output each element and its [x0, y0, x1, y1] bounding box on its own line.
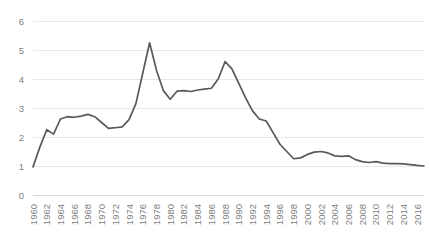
x-axis-tick-label: 1968 — [82, 204, 93, 225]
x-axis-tick-label: 1966 — [69, 204, 80, 225]
x-axis-tick-label: 1976 — [137, 204, 148, 225]
x-axis-tick-label: 1982 — [178, 204, 189, 225]
x-axis-tick-label: 1974 — [124, 204, 135, 225]
chart-container: 0123456 19601962196419661968197019721974… — [0, 0, 429, 241]
y-axis-tick-label: 6 — [19, 16, 24, 27]
x-axis-tick-label: 2008 — [357, 204, 368, 225]
line-chart-svg: 0123456 19601962196419661968197019721974… — [0, 0, 429, 241]
x-axis-tick-label: 1970 — [96, 204, 107, 225]
y-axis-tick-label: 5 — [19, 45, 24, 56]
x-axis-tick-label: 1992 — [247, 204, 258, 225]
x-axis-tick-label: 2004 — [329, 204, 340, 225]
y-axis-tick-label: 2 — [19, 132, 24, 143]
x-axis-tick-label: 2012 — [384, 204, 395, 225]
x-axis-tick-label: 1980 — [165, 204, 176, 225]
x-axis-tick-label: 1984 — [192, 204, 203, 225]
x-axis-tick-label: 1990 — [233, 204, 244, 225]
plot-area: 0123456 19601962196419661968197019721974… — [0, 0, 429, 241]
x-axis-tick-label: 2002 — [316, 204, 327, 225]
x-axis-tick-label: 1986 — [206, 204, 217, 225]
x-axis-tick-label: 2000 — [302, 204, 313, 225]
gridlines-group — [33, 22, 424, 196]
y-axis-tick-label: 4 — [19, 74, 24, 85]
x-axis-tick-labels: 1960196219641966196819701972197419761978… — [28, 204, 423, 225]
x-axis-tick-label: 2006 — [343, 204, 354, 225]
x-axis-tick-label: 1962 — [41, 204, 52, 225]
x-axis-tick-label: 1998 — [288, 204, 299, 225]
x-axis-tick-label: 2016 — [412, 204, 423, 225]
x-axis-tick-label: 2010 — [370, 204, 381, 225]
data-series-line — [33, 43, 424, 167]
x-axis-tick-label: 1996 — [274, 204, 285, 225]
y-axis-tick-label: 3 — [19, 103, 24, 114]
x-axis-tick-label: 1960 — [28, 204, 39, 225]
x-axis-tick-label: 1988 — [220, 204, 231, 225]
y-axis-tick-labels: 0123456 — [19, 16, 24, 201]
y-axis-tick-label: 0 — [19, 190, 24, 201]
x-axis-tick-label: 1978 — [151, 204, 162, 225]
y-axis-tick-label: 1 — [19, 161, 24, 172]
x-axis-tick-label: 1994 — [261, 204, 272, 225]
x-axis-tick-label: 1972 — [110, 204, 121, 225]
x-axis-tick-label: 1964 — [55, 204, 66, 225]
x-axis-tick-label: 2014 — [398, 204, 409, 225]
